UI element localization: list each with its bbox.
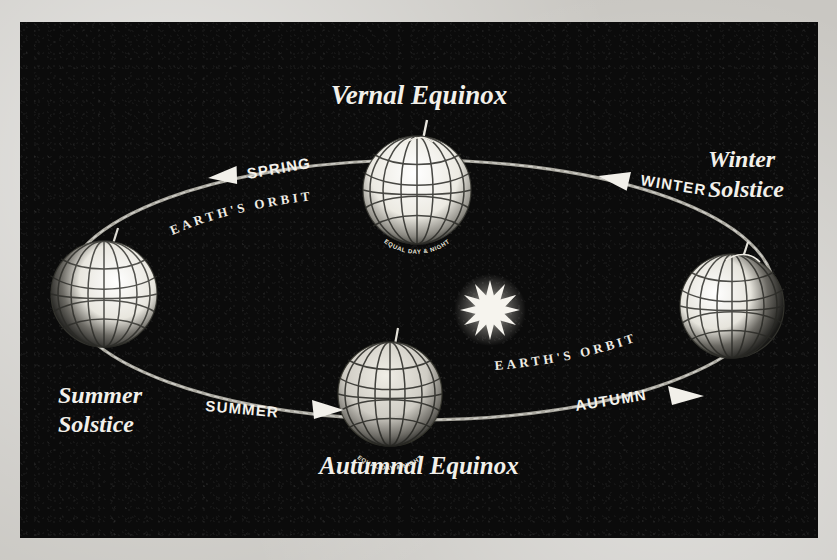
globe-winter-solstice xyxy=(680,242,784,358)
season-autumn: AUTUMN xyxy=(574,386,704,414)
season-winter: WINTER xyxy=(597,168,708,198)
right-arrow-icon xyxy=(668,386,704,405)
label-summer-solstice: Summer Solstice xyxy=(58,382,143,437)
orbit-label-right: EARTH'S ORBIT xyxy=(494,330,639,373)
season-label-spring: SPRING xyxy=(246,154,313,182)
globe-summer-solstice xyxy=(51,228,157,347)
label-vernal-equinox: Vernal Equinox xyxy=(331,80,507,110)
diagram-panel: EQUAL DAY & NIGHT xyxy=(20,22,818,538)
orbit-label-left: EARTH'S ORBIT xyxy=(168,188,314,238)
season-label-winter: WINTER xyxy=(640,171,708,198)
page-background: EQUAL DAY & NIGHT xyxy=(0,0,837,560)
season-label-autumn: AUTUMN xyxy=(574,386,648,414)
label-winter-solstice-line2: Solstice xyxy=(708,176,784,202)
label-summer-solstice-line1: Summer xyxy=(58,382,143,408)
diagram-canvas: EQUAL DAY & NIGHT xyxy=(20,22,818,538)
season-label-summer: SUMMER xyxy=(205,397,280,420)
season-summer: SUMMER xyxy=(205,397,344,420)
label-winter-solstice-line1: Winter xyxy=(708,146,776,172)
label-autumnal-equinox: Autumnal Equinox xyxy=(317,452,518,479)
globe-vernal-equinox xyxy=(363,120,471,244)
globe-autumnal-equinox xyxy=(338,328,442,446)
label-winter-solstice: Winter Solstice xyxy=(708,146,784,202)
label-summer-solstice-line2: Solstice xyxy=(58,411,134,437)
sun-star-icon xyxy=(454,274,526,346)
